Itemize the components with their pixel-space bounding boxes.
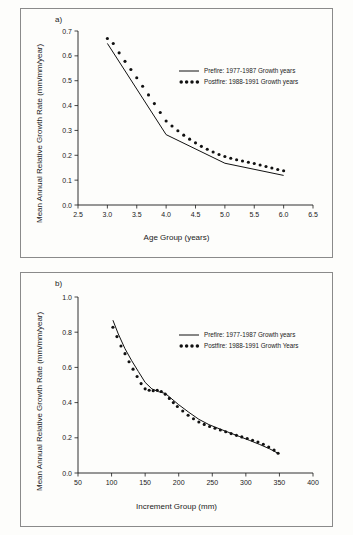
series-postfire-dot	[256, 440, 259, 443]
svg-text:0.6: 0.6	[62, 52, 72, 59]
series-postfire-dot	[147, 93, 150, 96]
series-postfire-dot	[156, 389, 159, 392]
series-postfire-dot	[282, 169, 285, 172]
svg-text:0.0: 0.0	[62, 202, 72, 209]
series-postfire-dot	[129, 68, 132, 71]
figure-container: a) Mean Annual Relative Growth Rate (mm/…	[0, 0, 353, 535]
legend-dot-swatch	[190, 80, 194, 84]
series-postfire-dot	[251, 439, 254, 442]
svg-text:6.0: 6.0	[279, 211, 289, 218]
series-postfire-dot	[273, 449, 276, 452]
series-postfire-dot	[170, 124, 173, 127]
series-postfire-dot	[197, 420, 200, 423]
svg-text:250: 250	[206, 479, 218, 486]
legend-label-prefire: Prefire: 1977-1987 Growth years	[204, 331, 295, 339]
series-postfire-dot	[119, 344, 122, 347]
series-postfire-dot	[140, 382, 143, 385]
series-postfire-dot	[182, 134, 185, 137]
legend-label-postfire: Postfire: 1988-1991 Growth Years	[204, 342, 299, 349]
series-postfire-dot	[176, 129, 179, 132]
series-postfire-dot	[203, 423, 206, 426]
series-postfire-dot	[172, 401, 175, 404]
series-postfire-dot	[192, 417, 195, 420]
svg-text:5.5: 5.5	[249, 211, 259, 218]
legend-label-postfire: Postfire: 1988-1991 Growth years	[204, 78, 298, 86]
series-postfire-dot	[253, 162, 256, 165]
series-postfire-dot	[127, 360, 130, 363]
svg-text:6.5: 6.5	[308, 211, 318, 218]
svg-text:0.5: 0.5	[62, 77, 72, 84]
svg-text:3.5: 3.5	[132, 211, 142, 218]
series-postfire-dot	[224, 430, 227, 433]
plot-area-a: 0.00.10.20.30.40.50.60.72.53.03.54.04.55…	[21, 9, 334, 259]
svg-text:0.6: 0.6	[62, 364, 72, 371]
series-postfire-dot	[194, 141, 197, 144]
svg-text:5.0: 5.0	[220, 211, 230, 218]
series-postfire-dot	[132, 368, 135, 371]
series-postfire-dot	[164, 393, 167, 396]
series-postfire-dot	[276, 168, 279, 171]
series-postfire-dot	[223, 155, 226, 158]
legend-dot-swatch	[196, 80, 200, 84]
series-postfire-dot	[230, 432, 233, 435]
series-postfire-dot	[148, 389, 151, 392]
svg-text:50: 50	[74, 479, 82, 486]
series-postfire-dot	[267, 445, 270, 448]
svg-text:0.2: 0.2	[62, 152, 72, 159]
svg-text:0.8: 0.8	[62, 329, 72, 336]
series-postfire-dot	[159, 111, 162, 114]
series-postfire-dot	[115, 335, 118, 338]
svg-text:0.4: 0.4	[62, 399, 72, 406]
svg-text:0.4: 0.4	[62, 102, 72, 109]
series-postfire-dot	[123, 352, 126, 355]
svg-text:0.7: 0.7	[62, 28, 72, 35]
series-postfire-dot	[136, 375, 139, 378]
series-postfire-dot	[264, 165, 267, 168]
series-postfire-dot	[235, 158, 238, 161]
chart-panel-b: b) Mean Annual Relative Growth Rate (mm/…	[20, 272, 333, 527]
series-postfire-dot	[165, 119, 168, 122]
svg-text:350: 350	[274, 479, 286, 486]
series-postfire-dot	[188, 138, 191, 141]
svg-text:200: 200	[173, 479, 185, 486]
series-postfire-dot	[206, 148, 209, 151]
series-prefire-line	[113, 320, 278, 453]
series-prefire-line	[107, 43, 283, 175]
series-postfire-dot	[240, 435, 243, 438]
svg-text:3.0: 3.0	[103, 211, 113, 218]
legend-dot-swatch	[196, 344, 200, 348]
series-postfire-dot	[106, 37, 109, 40]
series-postfire-dot	[277, 452, 280, 455]
series-postfire-dot	[200, 145, 203, 148]
series-postfire-dot	[241, 159, 244, 162]
chart-panel-a: a) Mean Annual Relative Growth Rate (mm/…	[20, 8, 333, 258]
series-postfire-dot	[247, 161, 250, 164]
series-postfire-dot	[187, 414, 190, 417]
legend-dot-swatch	[179, 344, 183, 348]
series-postfire-dot	[213, 427, 216, 430]
series-postfire-dot	[111, 326, 114, 329]
series-postfire-dot	[160, 390, 163, 393]
series-postfire-dot	[168, 397, 171, 400]
series-postfire-dot	[123, 60, 126, 63]
series-postfire-dot	[153, 102, 156, 105]
svg-text:0.3: 0.3	[62, 127, 72, 134]
series-postfire-dot	[217, 153, 220, 156]
series-postfire-dot	[270, 166, 273, 169]
svg-text:0.0: 0.0	[62, 470, 72, 477]
legend-dot-swatch	[190, 344, 194, 348]
svg-text:400: 400	[307, 479, 319, 486]
series-postfire-dot	[112, 42, 115, 45]
series-postfire-dot	[259, 163, 262, 166]
series-postfire-dot	[135, 76, 138, 79]
series-postfire-dot	[118, 51, 121, 54]
svg-text:0.1: 0.1	[62, 177, 72, 184]
series-postfire-dot	[219, 429, 222, 432]
series-postfire-dot	[141, 85, 144, 88]
series-postfire-dot	[212, 151, 215, 154]
series-postfire-dot	[176, 405, 179, 408]
legend-dot-swatch	[185, 80, 189, 84]
series-postfire-dot	[262, 443, 265, 446]
svg-text:0.2: 0.2	[62, 434, 72, 441]
svg-text:1.0: 1.0	[62, 294, 72, 301]
